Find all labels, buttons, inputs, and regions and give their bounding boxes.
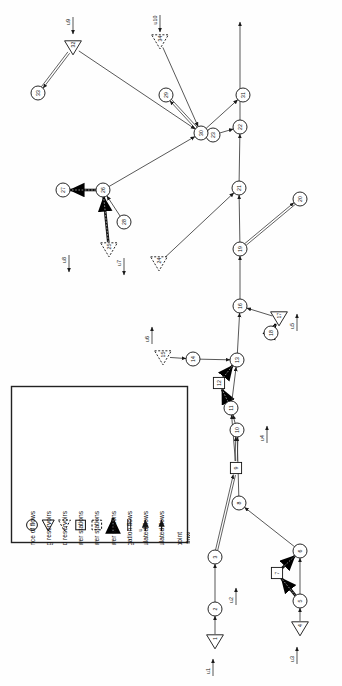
legend-label: Proposed reservoirs xyxy=(61,510,69,545)
node-12[interactable]: 12 xyxy=(213,377,224,388)
node-label: 8 xyxy=(236,501,242,504)
figure-canvas: u1u2u3u4u5u6u7u8u9u10 123456789101112131… xyxy=(0,0,342,686)
legend-label: Regulated flows xyxy=(158,510,166,545)
inflow-label: u8 xyxy=(61,257,67,263)
node-3[interactable]: 3 xyxy=(208,550,222,564)
inflow-label: u1 xyxy=(205,668,211,674)
node-label: 23 xyxy=(210,132,216,138)
node-14[interactable]: 14 xyxy=(186,352,200,366)
node-19[interactable]: 19 xyxy=(233,242,247,256)
inflow-u2: u2 xyxy=(228,588,237,605)
legend-note-line-2: in the direction of flow xyxy=(185,532,190,545)
node-label: 17 xyxy=(276,313,282,319)
node-26[interactable]: 26 xyxy=(96,183,110,197)
edge-32-30 xyxy=(79,51,195,129)
node-label: 24 xyxy=(156,258,162,264)
inflow-u7: u7 xyxy=(116,258,125,275)
node-27[interactable]: 27 xyxy=(56,183,70,197)
inflow-label: u9 xyxy=(65,19,71,25)
legend-entry-8: Regulated flows xyxy=(158,510,166,545)
node-2[interactable]: 2 xyxy=(208,602,222,616)
edge-11-13 xyxy=(232,367,236,401)
edge-21-22 xyxy=(239,134,240,181)
edge-7-6 xyxy=(282,556,295,568)
node-label: 26 xyxy=(100,187,106,193)
inflow-u6: u6 xyxy=(144,327,153,344)
node-22[interactable]: 22 xyxy=(233,120,247,134)
node-10[interactable]: 10 xyxy=(230,423,244,437)
network-diagram: u1u2u3u4u5u6u7u8u9u10 123456789101112131… xyxy=(0,0,342,686)
node-label: 3 xyxy=(212,555,218,558)
node-7[interactable]: 7 xyxy=(271,567,282,578)
edge-3-9 xyxy=(216,475,236,551)
inflow-u3: u3 xyxy=(289,647,298,664)
node-28[interactable]: 28 xyxy=(117,215,131,229)
edge-13-16 xyxy=(237,313,239,353)
node-label: 9 xyxy=(233,466,239,469)
inflow-label: u7 xyxy=(116,260,122,266)
legend-label: Unregulated flows xyxy=(142,510,150,545)
node-15[interactable]: 15 xyxy=(155,351,172,365)
node-1[interactable]: 1 xyxy=(207,635,224,649)
node-31[interactable]: 31 xyxy=(236,88,250,102)
node-label: 12 xyxy=(216,380,222,386)
node-20[interactable]: 20 xyxy=(293,192,307,206)
node-34[interactable]: 34 xyxy=(152,35,169,49)
node-label: 22 xyxy=(237,124,243,130)
edge-34-30 xyxy=(163,47,198,126)
inflow-label: u4 xyxy=(259,435,265,441)
node-label: 10 xyxy=(234,427,240,433)
edge-23-22 xyxy=(220,129,234,133)
inflow-label: u3 xyxy=(289,656,295,662)
node-label: 21 xyxy=(236,185,242,191)
edge-25-26 xyxy=(104,197,109,242)
node-label: 18 xyxy=(268,330,274,336)
node-16[interactable]: 16 xyxy=(233,299,247,313)
node-24[interactable]: 24 xyxy=(151,257,168,271)
node-18[interactable]: 18 xyxy=(264,326,278,340)
node-label: 1 xyxy=(212,637,218,640)
edge-19-21 xyxy=(239,195,240,242)
legend-note-line-1: In all cases arrowheads point xyxy=(176,532,184,545)
node-label: 20 xyxy=(297,196,303,202)
node-17[interactable]: 17 xyxy=(271,312,288,326)
node-21[interactable]: 21 xyxy=(232,181,246,195)
node-29[interactable]: 29 xyxy=(159,88,173,102)
edge-18-17 xyxy=(274,324,275,327)
edge-12-13 xyxy=(223,366,232,378)
edge-32-33 xyxy=(41,52,69,88)
node-6[interactable]: 6 xyxy=(293,544,307,558)
edge-14-13 xyxy=(200,359,230,360)
edge-10-11 xyxy=(233,415,235,423)
inflow-label: u10 xyxy=(152,16,158,25)
legend-entry-3: Existing power stations xyxy=(76,510,86,545)
node-30[interactable]: 30 xyxy=(194,126,208,140)
edge-15-14 xyxy=(170,357,186,358)
node-label: 32 xyxy=(70,42,76,48)
node-4[interactable]: 4 xyxy=(292,622,309,636)
node-label: 19 xyxy=(237,246,243,252)
legend-entry-4: Proposed power stations xyxy=(92,510,102,545)
inflow-label: u6 xyxy=(144,336,150,342)
legend-entry-5: Flows to and from power stations xyxy=(110,510,118,545)
node-label: 25 xyxy=(106,244,112,250)
node-11[interactable]: 11 xyxy=(224,401,238,415)
node-8[interactable]: 8 xyxy=(232,496,246,510)
node-25[interactable]: 25 xyxy=(101,243,118,257)
legend-label: Proposed power stations xyxy=(93,510,101,545)
node-label: 13 xyxy=(234,357,240,363)
edge-17-16 xyxy=(247,308,273,316)
node-9[interactable]: 9 xyxy=(230,462,241,473)
node-13[interactable]: 13 xyxy=(230,353,244,367)
node-label: 29 xyxy=(163,92,169,98)
node-label: 14 xyxy=(190,356,196,362)
inflow-u10: u10 xyxy=(152,15,161,32)
edge-6-8 xyxy=(245,507,295,546)
inflow-label: u5 xyxy=(289,323,295,329)
node-label: 34 xyxy=(157,36,163,42)
node-33[interactable]: 33 xyxy=(31,86,45,100)
node-label: 11 xyxy=(228,405,234,410)
inflow-label: u2 xyxy=(228,597,234,603)
node-5[interactable]: 5 xyxy=(293,594,307,608)
legend-label: Confluence of flows xyxy=(29,510,36,545)
